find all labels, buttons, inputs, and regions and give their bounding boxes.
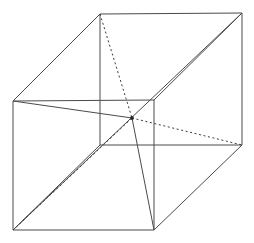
- cube-edges-group: [13, 13, 242, 230]
- back-face-top-edge: [100, 13, 242, 14]
- center-intersection: [130, 116, 134, 120]
- cube-nodes-group: [130, 116, 134, 120]
- cube-figure-container: [0, 0, 254, 243]
- diagonal-front-top-left-to-center: [13, 101, 132, 118]
- diagonal-center-to-back-bottom-right: [132, 118, 242, 145]
- front-face-top-edge: [13, 100, 154, 101]
- diagonal-back-top-left-to-center: [100, 14, 132, 118]
- connector-top-left: [13, 14, 100, 101]
- cube-line-drawing: [0, 0, 254, 243]
- connector-bottom-right: [154, 145, 242, 230]
- diagonal-center-to-front-bottom-right: [132, 118, 154, 230]
